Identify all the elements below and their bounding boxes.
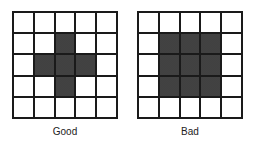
empty-cell	[35, 34, 54, 53]
empty-cell	[222, 34, 241, 53]
filled-cell	[201, 77, 220, 96]
empty-cell	[56, 98, 75, 117]
empty-cell	[139, 13, 158, 32]
empty-cell	[222, 98, 241, 117]
empty-cell	[139, 77, 158, 96]
empty-cell	[97, 77, 116, 96]
empty-cell	[14, 55, 33, 74]
empty-cell	[35, 13, 54, 32]
empty-cell	[139, 34, 158, 53]
filled-cell	[56, 77, 75, 96]
empty-cell	[97, 13, 116, 32]
filled-cell	[181, 34, 200, 53]
filled-cell	[56, 34, 75, 53]
empty-cell	[181, 13, 200, 32]
empty-cell	[14, 13, 33, 32]
grid-bad	[137, 11, 243, 119]
filled-cell	[160, 77, 179, 96]
empty-cell	[14, 34, 33, 53]
empty-cell	[139, 55, 158, 74]
empty-cell	[97, 98, 116, 117]
empty-cell	[222, 13, 241, 32]
empty-cell	[97, 55, 116, 74]
filled-cell	[181, 55, 200, 74]
empty-cell	[35, 98, 54, 117]
empty-cell	[160, 98, 179, 117]
empty-cell	[222, 55, 241, 74]
empty-cell	[201, 98, 220, 117]
label-good: Good	[12, 126, 118, 137]
empty-cell	[14, 98, 33, 117]
empty-cell	[76, 34, 95, 53]
filled-cell	[181, 77, 200, 96]
empty-cell	[56, 13, 75, 32]
empty-cell	[160, 13, 179, 32]
empty-cell	[14, 77, 33, 96]
empty-cell	[201, 13, 220, 32]
empty-cell	[222, 77, 241, 96]
filled-cell	[160, 55, 179, 74]
filled-cell	[201, 55, 220, 74]
grid-good	[12, 11, 118, 119]
label-bad: Bad	[137, 126, 243, 137]
filled-cell	[76, 55, 95, 74]
empty-cell	[139, 98, 158, 117]
empty-cell	[35, 77, 54, 96]
filled-cell	[160, 34, 179, 53]
empty-cell	[181, 98, 200, 117]
filled-cell	[35, 55, 54, 74]
empty-cell	[76, 13, 95, 32]
empty-cell	[76, 98, 95, 117]
filled-cell	[56, 55, 75, 74]
empty-cell	[76, 77, 95, 96]
filled-cell	[201, 34, 220, 53]
empty-cell	[97, 34, 116, 53]
